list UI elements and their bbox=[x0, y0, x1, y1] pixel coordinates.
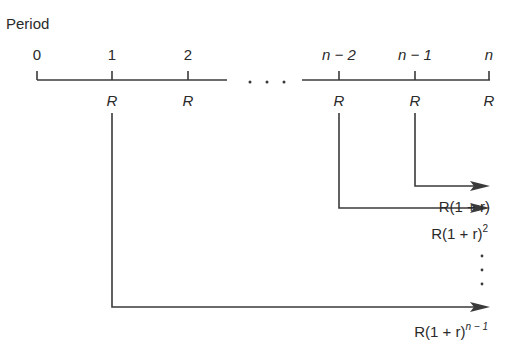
future-value-base: R(1 + r) bbox=[414, 323, 465, 340]
future-value-n-1: R(1 + r)n − 1 bbox=[414, 322, 488, 339]
arrow-1 bbox=[112, 113, 480, 307]
diagram-title: Period bbox=[6, 16, 49, 31]
arrow-n-2 bbox=[339, 113, 480, 208]
period-label-2: 2 bbox=[184, 47, 192, 62]
future-value-base: R(1 + r) bbox=[439, 198, 490, 215]
future-value-2: R(1 + r)2 bbox=[431, 224, 488, 241]
ellipsis-dot bbox=[249, 81, 252, 84]
period-label-n: n bbox=[485, 47, 493, 62]
vertical-ellipsis-dot bbox=[481, 255, 484, 258]
future-value-base: R(1 + r) bbox=[431, 225, 482, 242]
ellipsis-dot bbox=[266, 81, 269, 84]
payment-label: R bbox=[334, 93, 345, 108]
vertical-ellipsis-dot bbox=[481, 283, 484, 286]
future-value-exponent: 2 bbox=[482, 223, 488, 234]
period-label-n-2: n − 2 bbox=[322, 47, 356, 62]
timeline-diagram bbox=[0, 0, 509, 352]
period-label-0: 0 bbox=[33, 47, 41, 62]
future-value-exponent: n − 1 bbox=[465, 321, 488, 332]
payment-label: R bbox=[410, 93, 421, 108]
arrow-n-1 bbox=[415, 113, 480, 186]
period-label-1: 1 bbox=[108, 47, 116, 62]
payment-label: R bbox=[107, 93, 118, 108]
future-value-1: R(1 + r) bbox=[439, 199, 490, 214]
period-label-n-1: n − 1 bbox=[398, 47, 432, 62]
vertical-ellipsis-dot bbox=[481, 269, 484, 272]
ellipsis-dot bbox=[283, 81, 286, 84]
payment-label: R bbox=[183, 93, 194, 108]
payment-label: R bbox=[484, 93, 495, 108]
